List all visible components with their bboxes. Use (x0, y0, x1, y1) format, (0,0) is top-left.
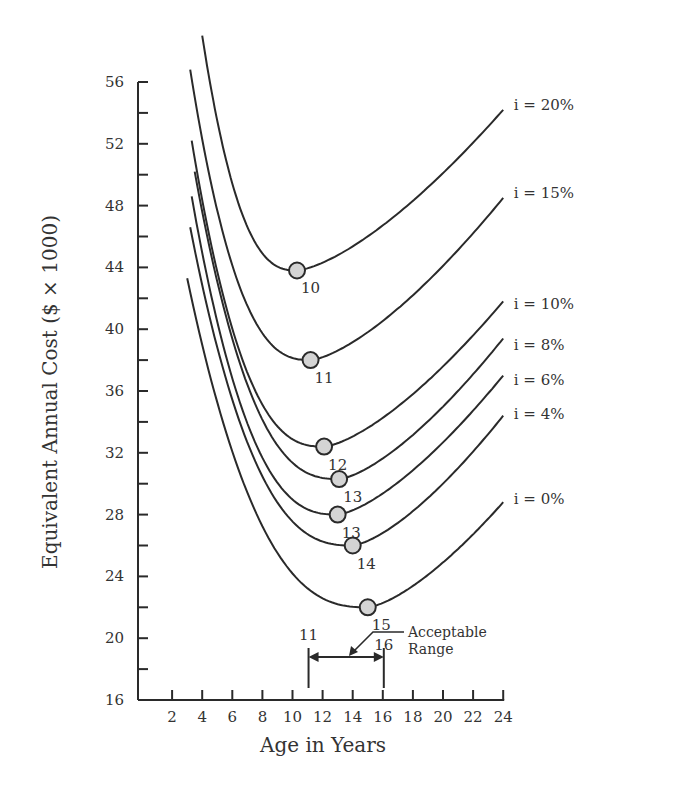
range-end-label: 16 (374, 636, 393, 654)
x-tick-label: 10 (283, 708, 302, 726)
interest-rate-label: i = 0% (514, 490, 565, 508)
x-tick-label: 12 (313, 708, 332, 726)
chart-canvas: 1620242832364044485256246810121416182022… (0, 0, 695, 793)
x-tick-label: 6 (228, 708, 238, 726)
x-tick-label: 8 (258, 708, 268, 726)
interest-rate-label: i = 8% (514, 336, 565, 354)
y-tick-label: 40 (105, 320, 124, 338)
y-tick-label: 52 (105, 135, 124, 153)
minimum-point-marker (289, 262, 305, 278)
y-axis-title: Equivalent Annual Cost ($ × 1000) (38, 215, 62, 569)
y-tick-label: 32 (105, 444, 124, 462)
acceptable-label: Acceptable (407, 624, 487, 640)
minimum-age-label: 11 (315, 369, 334, 387)
minimum-point-marker (345, 538, 361, 554)
x-axis-title: Age in Years (259, 733, 386, 757)
x-tick-label: 4 (197, 708, 207, 726)
interest-rate-label: i = 10% (514, 295, 574, 313)
interest-rate-label: i = 6% (514, 371, 565, 389)
range-arrow-left-head (309, 652, 319, 662)
y-tick-label: 28 (105, 506, 124, 524)
y-tick-label: 44 (105, 258, 124, 276)
x-tick-label: 24 (494, 708, 513, 726)
cost-curve (190, 70, 503, 361)
cost-curve (195, 172, 504, 480)
minimum-markers: 10111213131415 (289, 262, 391, 634)
range-label: Range (408, 641, 453, 657)
minimum-age-label: 14 (357, 555, 376, 573)
y-tick-label: 56 (105, 73, 124, 91)
interest-rate-label: i = 4% (514, 405, 565, 423)
x-tick-label: 18 (403, 708, 422, 726)
x-tick-label: 22 (464, 708, 483, 726)
curve-labels: i = 20%i = 15%i = 10%i = 8%i = 6%i = 4%i… (514, 96, 574, 508)
x-tick-label: 2 (167, 708, 177, 726)
minimum-age-label: 10 (301, 279, 320, 297)
y-tick-label: 36 (105, 382, 124, 400)
x-tick-label: 20 (433, 708, 452, 726)
x-tick-label: 14 (343, 708, 362, 726)
minimum-point-marker (331, 471, 347, 487)
interest-rate-label: i = 15% (514, 184, 574, 202)
minimum-point-marker (316, 439, 332, 455)
curves (187, 36, 503, 608)
interest-rate-label: i = 20% (514, 96, 574, 114)
minimum-point-marker (330, 507, 346, 523)
x-tick-label: 16 (373, 708, 392, 726)
minimum-age-label: 13 (343, 488, 362, 506)
y-tick-label: 16 (105, 691, 124, 709)
cost-curve (187, 278, 503, 607)
y-tick-label: 20 (105, 629, 124, 647)
y-tick-label: 48 (105, 197, 124, 215)
minimum-point-marker (360, 599, 376, 615)
range-start-label: 11 (299, 626, 318, 644)
y-tick-label: 24 (105, 567, 124, 585)
acceptable-range-annotation: 1116AcceptableRange (299, 624, 487, 688)
cost-curve (202, 36, 503, 271)
minimum-point-marker (303, 352, 319, 368)
